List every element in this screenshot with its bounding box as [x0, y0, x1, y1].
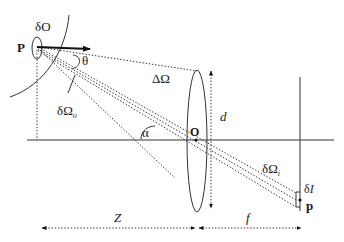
- image-point: [298, 198, 301, 201]
- lens-radiometry-diagram: δO P θ ΔΩ δΩo α O d δΩi δI p Z f: [0, 0, 344, 242]
- label-alpha: α: [142, 125, 149, 140]
- ray-chief-1: [38, 47, 296, 193]
- label-lens-center-o: O: [190, 125, 199, 139]
- label-delta-omega-o: δΩo: [57, 103, 77, 120]
- label-f: f: [246, 210, 252, 225]
- theta-arc: [72, 55, 80, 69]
- surface-normal-arrow: [37, 47, 90, 49]
- label-image-point-p: p: [306, 198, 313, 213]
- label-delta-i: δI: [304, 182, 315, 196]
- label-delta-omega-i: δΩi: [262, 161, 280, 178]
- label-theta: θ: [82, 53, 88, 68]
- label-point-p: P: [17, 40, 25, 55]
- label-delta-o: δO: [35, 19, 51, 34]
- solid-angle-object-leader: [68, 75, 75, 93]
- ray-to-lens-top: [38, 47, 197, 71]
- label-z: Z: [114, 210, 122, 225]
- label-d: d: [220, 109, 227, 124]
- label-delta-omega: ΔΩ: [152, 71, 170, 86]
